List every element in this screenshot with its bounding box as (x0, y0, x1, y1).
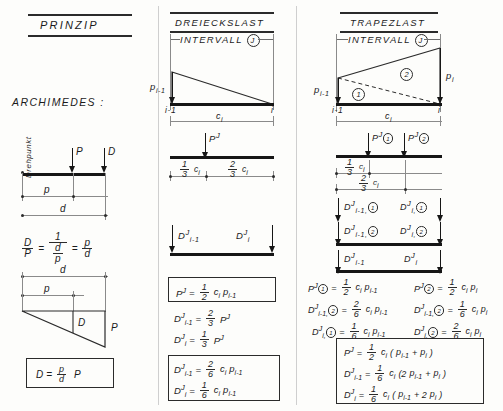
trb3-eq: = (359, 390, 364, 400)
tfr2-p: pi (481, 304, 488, 316)
trap-result-formula-D2: DJi = 1 6 ci ( pi-1 + 2 pi ) (344, 385, 442, 404)
tfr3-circle: 2 (428, 327, 439, 338)
trb3-b: pi (430, 389, 437, 401)
trap-label-p-right: pi (446, 70, 454, 83)
trap-result-formula-D1: DJi-1 = 1 6 ci (2 pi-1 + pi ) (344, 364, 446, 383)
trap-seg-b-fraction: 2 3 (359, 174, 368, 193)
tfl2-p: pi-1 (375, 304, 388, 316)
trb3-fraction: 1 6 (369, 385, 378, 404)
trap-reaction-label-l2: DJi-1,2 (344, 223, 378, 238)
trap-dim-third-2 (336, 189, 442, 190)
trb1-a: pi-1 (396, 347, 409, 359)
resultant-1-circle: 1 (383, 133, 394, 144)
trb2-b: pi (433, 368, 440, 380)
trb1-lhs: PJ (344, 345, 354, 360)
trap-seg-a-fraction: 1 3 (345, 158, 354, 177)
trb1-fraction: 1 2 (367, 343, 376, 362)
tfr3-lhs: DJi,2 (414, 324, 438, 339)
trb2-open: (2 (398, 369, 406, 379)
trap-formula-left-1: PJ1 = 1 2 ci pi-1 (308, 278, 377, 297)
trap-resultant-label-1: PJ1 (372, 130, 393, 144)
trap-reaction-l1-circle: 1 (368, 202, 379, 213)
tfr1-circle: 2 (424, 284, 435, 295)
trb2-eq: = (365, 369, 370, 379)
trap-reaction-l2-circle: 2 (368, 226, 379, 237)
tfr2-eq: = (447, 305, 452, 315)
trb3-open: ( (392, 390, 395, 400)
trap-span-tick-l (336, 116, 337, 126)
trap-reaction-beam-1 (336, 243, 442, 246)
tfl2-lhs: DJi-1,2 (308, 302, 338, 317)
trb2-plus: + (425, 369, 430, 379)
trap-formula-left-2: DJi-1,2 = 2 6 ci pi-1 (308, 300, 388, 319)
trb3-close: ) (439, 390, 442, 400)
tfl3-lhs: DJi,1 (312, 324, 336, 339)
trap-reaction-label-r2: DJi,2 (400, 223, 427, 238)
tfr3-eq: = (441, 327, 446, 337)
tfr2-circle: 2 (434, 305, 445, 316)
trap-reaction-label-r1: DJi,1 (400, 199, 427, 214)
trb2-close: ) (443, 369, 446, 379)
trb2-c: ci (389, 368, 395, 380)
tfl1-lhs: PJ1 (308, 281, 328, 295)
tfl2-eq: = (341, 305, 346, 315)
trb2-a: pi-1 (409, 368, 422, 380)
zone-marker-2: 2 (400, 68, 413, 81)
trb3-plus: + 2 (414, 390, 427, 400)
trb1-eq: = (357, 348, 362, 358)
tfl1-p: pi-1 (365, 282, 378, 294)
trb3-c: ci (383, 389, 389, 401)
trap-formula-right-2: DJi-1,2 = 1 6 ci pi (414, 300, 487, 319)
trap-node-left: i-1 (332, 105, 343, 115)
tfr2-c: ci (472, 304, 478, 316)
trb1-c: ci (381, 347, 387, 359)
tfr3-c: ci (466, 326, 472, 338)
trb2-fraction: 1 6 (375, 364, 384, 383)
trap-label-p-left: pi-1 (314, 84, 329, 97)
tfr2-lhs: DJi-1,2 (414, 302, 444, 317)
tfl3-c: ci (364, 326, 370, 338)
trap-dot-1l (335, 172, 338, 175)
trap-reaction-r1-circle: 1 (416, 202, 427, 213)
trap-reaction-label-r3: DJi (404, 251, 418, 266)
trb2-lhs: DJi-1 (344, 366, 362, 381)
tfl2-fraction: 2 6 (352, 300, 361, 319)
trb1-close: ) (430, 348, 433, 358)
trap-reaction-beam-2 (336, 270, 442, 273)
trb1-plus: + (412, 348, 417, 358)
trap-node-right: i (438, 105, 441, 115)
trap-seg-b-c: ci (373, 178, 379, 189)
tfr1-fraction: 1 2 (448, 278, 457, 297)
trap-span-tick-r (440, 116, 441, 126)
trap-reaction-label-l1: DJi-1,1 (344, 199, 378, 214)
tfl1-eq: = (331, 283, 336, 293)
trap-seg-label-b: 2 3 ci (357, 174, 379, 193)
tfl3-p: pi-1 (373, 326, 386, 338)
tfl1-c: ci (356, 282, 362, 294)
trb3-lhs: DJi (344, 387, 356, 402)
tfl3-circle: 1 (326, 327, 337, 338)
trb1-open: ( (390, 348, 393, 358)
resultant-2-circle: 2 (419, 133, 430, 144)
tfr1-eq: = (437, 283, 442, 293)
tfl2-c: ci (366, 304, 372, 316)
trap-span-label: ci (385, 111, 392, 123)
tfr1-p: pi (471, 282, 478, 294)
trap-dot-2m (404, 188, 407, 191)
trap-reaction-label-l3: DJi-1 (344, 251, 365, 266)
tfl2-circle: 2 (328, 305, 339, 316)
zone-marker-1: 1 (352, 88, 365, 101)
trb1-b: pi (420, 347, 427, 359)
engineering-drawing-sheet: PRINZIP ARCHIMEDES : Drehpunkt P D p d D… (0, 0, 503, 411)
trap-formula-right-1: PJ2 = 1 2 ci pi (414, 278, 477, 297)
trb3-a: pi-1 (398, 389, 411, 401)
tfr1-c: ci (462, 282, 468, 294)
trapezoid-baseline (336, 103, 442, 106)
tfr2-fraction: 1 6 (458, 300, 467, 319)
tfl1-fraction: 1 2 (342, 278, 351, 297)
tfl1-circle: 1 (318, 284, 329, 295)
tfr1-lhs: PJ2 (414, 281, 434, 295)
trap-result-formula-P: PJ = 1 2 ci ( pi-1 + pi ) (344, 343, 433, 362)
trap-resultant-label-2: PJ2 (408, 130, 429, 144)
tfr3-p: pi (475, 326, 482, 338)
